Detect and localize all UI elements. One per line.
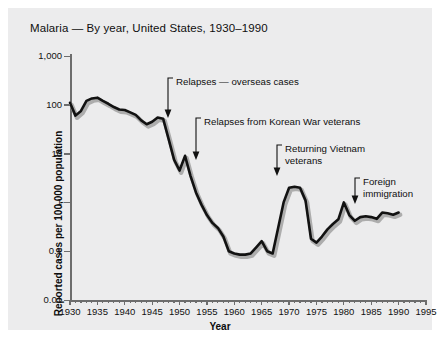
x-axis-tick-minor [212, 300, 213, 303]
y-axis-tick-label: 10 [8, 148, 62, 159]
annotation-returning-vietnam-veterans: Returning Vietnam veterans [285, 143, 371, 166]
x-axis-tick-minor [239, 300, 240, 303]
x-axis-tick-minor [168, 300, 169, 303]
x-axis-tick-minor [80, 300, 81, 303]
chart-title: Malaria — By year, United States, 1930–1… [30, 22, 268, 34]
x-axis-tick-minor [86, 300, 87, 303]
annotation-immigration-line1: Foreign [363, 176, 433, 188]
x-axis-tick-label: 1985 [361, 306, 382, 317]
x-axis-tick-minor [409, 300, 410, 303]
x-axis-tick-major [206, 300, 207, 305]
x-axis-tick-major [398, 300, 399, 305]
x-axis-tick-minor [75, 300, 76, 303]
x-axis-tick-label: 1940 [114, 306, 135, 317]
x-axis-tick-major [343, 300, 344, 305]
x-axis-tick-minor [321, 300, 322, 303]
x-axis-tick-minor [403, 300, 404, 303]
x-axis-tick-minor [250, 300, 251, 303]
x-axis-tick-major [261, 300, 262, 305]
leader-relapses-overseas [168, 78, 173, 110]
x-axis-tick-minor [310, 300, 311, 303]
y-axis-labels: 1,0001001010.10.01 [8, 8, 62, 330]
x-axis-tick-major [234, 300, 235, 305]
x-axis-tick-minor [349, 300, 350, 303]
arrowhead-returning-vietnam-veterans [274, 168, 281, 177]
x-axis-tick-label: 1995 [415, 306, 436, 317]
x-axis-tick-minor [354, 300, 355, 303]
x-axis-tick-label: 1980 [333, 306, 354, 317]
chart-figure: Malaria — By year, United States, 1930–1… [8, 8, 432, 330]
x-axis-tick-minor [190, 300, 191, 303]
y-axis-line [70, 54, 72, 302]
x-axis-tick-minor [141, 300, 142, 303]
x-axis-tick-minor [382, 300, 383, 303]
x-axis-tick-major [316, 300, 317, 305]
x-axis-tick-label: 1990 [388, 306, 409, 317]
y-axis-tick-label: 1 [8, 196, 62, 207]
x-axis-tick-minor [267, 300, 268, 303]
y-axis-tick-label: 0.01 [8, 294, 62, 305]
x-axis-tick-label: 1945 [142, 306, 163, 317]
x-axis-tick-label: 1975 [306, 306, 327, 317]
x-axis-tick-label: 1935 [87, 306, 108, 317]
x-axis-tick-label: 1930 [59, 306, 80, 317]
x-axis-tick-minor [283, 300, 284, 303]
x-axis-tick-minor [102, 300, 103, 303]
x-axis-tick-minor [294, 300, 295, 303]
x-axis-tick-minor [305, 300, 306, 303]
x-axis-tick-minor [201, 300, 202, 303]
leader-foreign-immigration [355, 178, 360, 196]
x-axis-tick-minor [228, 300, 229, 303]
x-axis-tick-minor [332, 300, 333, 303]
x-axis-tick-label: 1955 [196, 306, 217, 317]
x-axis-tick-minor [387, 300, 388, 303]
x-axis-tick-label: 1965 [251, 306, 272, 317]
x-axis-tick-minor [393, 300, 394, 303]
leader-relapses-korean-war [196, 118, 201, 152]
x-axis-tick-major [371, 300, 372, 305]
x-axis-tick-major [152, 300, 153, 305]
y-axis-tick [64, 251, 70, 253]
x-axis-tick-minor [376, 300, 377, 303]
x-axis-tick-minor [195, 300, 196, 303]
x-axis-tick-minor [217, 300, 218, 303]
x-axis-tick-minor [299, 300, 300, 303]
x-axis-tick-minor [360, 300, 361, 303]
x-axis-line [69, 300, 427, 302]
annotation-vietnam-line1: Returning Vietnam [285, 143, 371, 155]
y-axis-tick [64, 202, 70, 204]
annotation-leaders [165, 78, 360, 204]
y-axis-tick [64, 153, 70, 155]
x-axis-tick-minor [163, 300, 164, 303]
x-axis-tick-major [124, 300, 125, 305]
x-axis-title: Year [8, 321, 432, 332]
x-axis-tick-minor [414, 300, 415, 303]
arrowhead-relapses-korean-war [193, 152, 200, 161]
annotation-relapses-korean-war: Relapses from Korean War veterans [204, 116, 360, 128]
x-axis-tick-minor [223, 300, 224, 303]
x-axis-tick-minor [256, 300, 257, 303]
arrowhead-relapses-overseas [165, 110, 172, 119]
x-axis-tick-minor [119, 300, 120, 303]
x-axis-tick-minor [272, 300, 273, 303]
y-axis-tick [64, 56, 70, 58]
x-axis-tick-minor [245, 300, 246, 303]
x-axis-tick-minor [130, 300, 131, 303]
x-axis-tick-label: 1950 [169, 306, 190, 317]
x-axis-tick-minor [91, 300, 92, 303]
y-axis-tick-label: 1,000 [8, 50, 62, 61]
x-axis-tick-major [179, 300, 180, 305]
x-axis-tick-minor [135, 300, 136, 303]
arrowhead-foreign-immigration [352, 196, 359, 205]
x-axis-tick-minor [173, 300, 174, 303]
x-axis-tick-minor [146, 300, 147, 303]
leader-returning-vietnam-veterans [277, 145, 282, 168]
chart-plot-area [8, 8, 432, 330]
x-axis-tick-minor [365, 300, 366, 303]
x-axis-tick-minor [327, 300, 328, 303]
x-axis-tick-minor [113, 300, 114, 303]
annotation-relapses-overseas: Relapses — overseas cases [176, 76, 299, 88]
y-axis-tick-label: 100 [8, 99, 62, 110]
x-axis-tick-label: 1970 [278, 306, 299, 317]
x-axis-tick-minor [278, 300, 279, 303]
